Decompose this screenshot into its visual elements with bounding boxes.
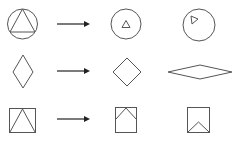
tall-diamond-icon xyxy=(13,55,33,88)
diagram-canvas xyxy=(0,0,245,141)
right-arrow-icon xyxy=(57,68,90,74)
square-with-top-chevron-icon xyxy=(116,108,137,133)
wide-diamond-icon xyxy=(168,65,232,79)
square-with-inscribed-triangle-icon xyxy=(10,109,36,133)
row-3 xyxy=(10,108,210,133)
circle-with-small-triangle-icon xyxy=(111,9,141,39)
square-diamond-icon xyxy=(113,58,141,86)
square-with-bottom-chevron-icon xyxy=(188,108,210,133)
circle-with-rotated-triangle-icon xyxy=(183,9,215,41)
circle-with-inscribed-triangle-icon xyxy=(8,9,38,39)
row-1 xyxy=(8,9,216,41)
right-arrow-icon xyxy=(57,116,90,122)
row-2 xyxy=(13,55,232,88)
right-arrow-icon xyxy=(57,21,90,27)
